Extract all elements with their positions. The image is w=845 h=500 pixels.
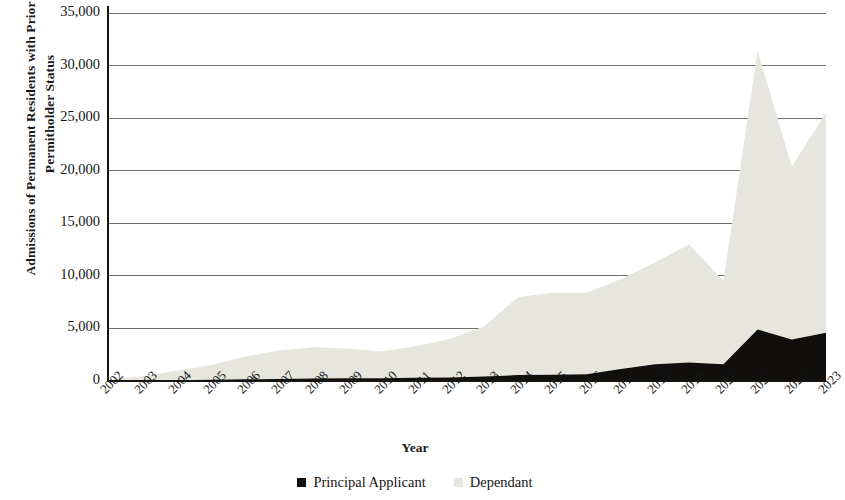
legend-item[interactable]: Dependant bbox=[454, 474, 533, 491]
legend-label: Principal Applicant bbox=[313, 474, 425, 491]
legend-swatch-icon bbox=[454, 478, 463, 487]
legend-label: Dependant bbox=[470, 474, 533, 491]
plot-area bbox=[0, 0, 830, 396]
x-axis-tick-labels: 2002200320042005200620072008200920102011… bbox=[0, 386, 830, 442]
legend-swatch-icon bbox=[297, 478, 306, 487]
area-series-dependant bbox=[108, 51, 826, 381]
chart-legend: Principal ApplicantDependant bbox=[0, 474, 830, 491]
x-axis-title: Year bbox=[0, 440, 830, 456]
legend-item[interactable]: Principal Applicant bbox=[297, 474, 425, 491]
plot-svg bbox=[0, 0, 830, 396]
